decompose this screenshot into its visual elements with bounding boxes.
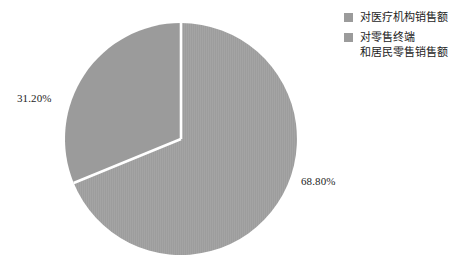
pie-chart: 31.20% 68.80% 对医疗机构销售额 对零售终端 和居民零售销售额 [0, 0, 476, 272]
legend-label-0: 对医疗机构销售额 [360, 10, 448, 25]
pie-value-label-major: 68.80% [301, 175, 336, 187]
legend-swatch-icon-1 [344, 33, 353, 42]
chart-legend: 对医疗机构销售额 对零售终端 和居民零售销售额 [344, 10, 474, 65]
legend-item-1[interactable]: 对零售终端 和居民零售销售额 [344, 30, 474, 60]
legend-swatch-icon-0 [344, 13, 353, 22]
legend-label-1: 对零售终端 和居民零售销售额 [360, 30, 448, 60]
pie-value-label-minor: 31.20% [17, 92, 52, 104]
legend-item-0[interactable]: 对医疗机构销售额 [344, 10, 474, 25]
